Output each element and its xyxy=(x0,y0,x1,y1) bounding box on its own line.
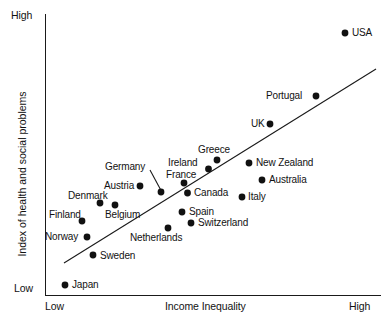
point-norway xyxy=(84,234,91,241)
point-label-germany: Germany xyxy=(105,161,145,172)
point-label-norway: Norway xyxy=(45,231,78,242)
point-germany xyxy=(158,189,165,196)
point-netherlands xyxy=(165,225,172,232)
point-label-belgium: Belgium xyxy=(105,209,140,220)
point-switzerland xyxy=(188,220,195,227)
point-label-denmark: Denmark xyxy=(68,190,108,201)
point-canada xyxy=(184,190,191,197)
x-axis-title: Income Inequality xyxy=(165,300,246,312)
point-label-uk: UK xyxy=(251,118,265,129)
point-sweden xyxy=(90,252,97,259)
x-axis-high-tick-label: High xyxy=(349,300,370,312)
point-italy xyxy=(239,194,246,201)
scatter-chart: High Low Low High Income Inequality Inde… xyxy=(0,0,388,328)
point-spain xyxy=(179,209,186,216)
y-axis-title: Index of health and social problems xyxy=(16,79,28,269)
point-label-new-zealand: New Zealand xyxy=(256,157,313,168)
point-label-austria: Austria xyxy=(104,180,134,191)
point-label-canada: Canada xyxy=(194,187,228,198)
point-austria xyxy=(137,183,144,190)
point-label-france: France xyxy=(166,169,196,180)
point-usa xyxy=(342,30,349,37)
point-ireland xyxy=(205,166,212,173)
point-greece xyxy=(214,157,221,164)
y-axis-high-tick-label: High xyxy=(11,9,32,21)
point-label-greece: Greece xyxy=(198,144,230,155)
point-uk xyxy=(267,121,274,128)
point-label-italy: Italy xyxy=(248,191,266,202)
x-axis-low-tick-label: Low xyxy=(45,300,64,312)
point-label-spain: Spain xyxy=(189,206,214,217)
point-japan xyxy=(62,282,69,289)
point-label-japan: Japan xyxy=(72,279,99,290)
point-new-zealand xyxy=(246,160,253,167)
point-label-usa: USA xyxy=(352,27,372,38)
point-belgium xyxy=(112,202,119,209)
point-label-sweden: Sweden xyxy=(100,250,135,261)
point-label-ireland: Ireland xyxy=(168,157,198,168)
point-portugal xyxy=(313,93,320,100)
point-label-portugal: Portugal xyxy=(266,90,302,101)
point-australia xyxy=(259,177,266,184)
point-label-switzerland: Switzerland xyxy=(198,217,248,228)
point-france xyxy=(181,180,188,187)
y-axis-low-tick-label: Low xyxy=(14,282,33,294)
germany-leader-line xyxy=(150,170,161,190)
point-label-netherlands: Netherlands xyxy=(130,232,182,243)
point-label-finland: Finland xyxy=(49,209,81,220)
point-label-australia: Australia xyxy=(269,174,307,185)
